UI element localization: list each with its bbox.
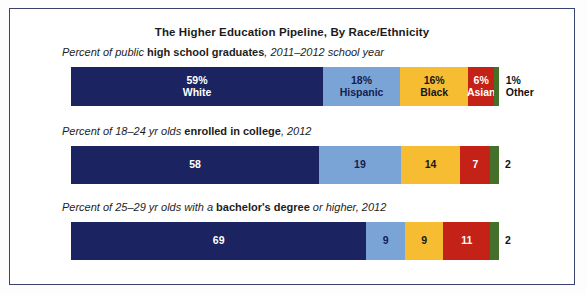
bar-group-subtitle: Percent of 25–29 yr olds with a bachelor… (62, 201, 386, 213)
bar-segment-other (490, 146, 499, 184)
bar-segment-asian: 11 (443, 222, 490, 260)
stacked-bar-row-1: 5819147 (71, 146, 499, 184)
segment-value: 7 (473, 159, 479, 171)
bar-segment-other (494, 67, 499, 106)
subtitle-emphasis: bachelor's degree (216, 201, 310, 213)
subtitle-suffix: , 2012 (281, 125, 312, 137)
bar-segment-black: 14 (401, 146, 461, 184)
bar-segment-white: 58 (71, 146, 319, 184)
segment-group-label: White (183, 87, 212, 99)
segment-value: 1% (506, 75, 521, 87)
segment-group-label: Other (506, 87, 534, 99)
segment-group-label: Hispanic (340, 87, 384, 99)
bar-segment-asian: 6%Asian (468, 67, 494, 106)
segment-value: 9 (421, 235, 427, 247)
subtitle-suffix: , 2011–2012 school year (264, 46, 384, 58)
stacked-bar-row-2: 699911 (71, 222, 499, 260)
segment-value: 16% (424, 75, 445, 87)
segment-value: 69 (213, 235, 225, 247)
bar-segment-hispanic: 19 (319, 146, 400, 184)
segment-value: 2 (505, 159, 511, 171)
segment-value: 11 (461, 235, 472, 247)
segment-value: 59% (187, 75, 208, 87)
chart-frame: The Higher Education Pipeline, By Race/E… (9, 8, 575, 285)
bar-group-subtitle: Percent of public high school graduates,… (62, 46, 384, 58)
segment-group-label: Black (420, 87, 448, 99)
bar-segment-hispanic: 18%Hispanic (323, 67, 400, 106)
bar-group-subtitle: Percent of 18–24 yr olds enrolled in col… (62, 125, 311, 137)
stacked-bar-row-0: 59%White18%Hispanic16%Black6%Asian (71, 67, 499, 106)
subtitle-prefix: Percent of public (62, 46, 147, 58)
bar-segment-black: 16%Black (400, 67, 468, 106)
bar-segment-white: 59%White (71, 67, 323, 106)
segment-value: 6% (474, 75, 489, 87)
infographic-figure: The Higher Education Pipeline, By Race/E… (0, 0, 587, 295)
segment-value: 18% (351, 75, 372, 87)
segment-group-label: Asian (467, 87, 496, 99)
bar-segment-outside-label-other: 1%Other (500, 67, 534, 106)
segment-value: 9 (383, 235, 389, 247)
segment-value: 2 (505, 235, 511, 247)
bar-segment-outside-label-other: 2 (499, 222, 511, 260)
bar-segment-black: 9 (405, 222, 444, 260)
subtitle-prefix: Percent of 18–24 yr olds (62, 125, 184, 137)
subtitle-suffix: or higher, 2012 (310, 201, 386, 213)
subtitle-emphasis: high school graduates (147, 46, 264, 58)
segment-value: 19 (354, 159, 366, 171)
bar-segment-hispanic: 9 (366, 222, 405, 260)
bar-segment-white: 69 (71, 222, 366, 260)
segment-value: 14 (425, 159, 437, 171)
page-title: The Higher Education Pipeline, By Race/E… (10, 26, 574, 38)
bar-segment-other (490, 222, 499, 260)
subtitle-prefix: Percent of 25–29 yr olds with a (62, 201, 216, 213)
subtitle-emphasis: enrolled in college (184, 125, 281, 137)
bar-segment-asian: 7 (460, 146, 490, 184)
segment-value: 58 (189, 159, 201, 171)
bar-segment-outside-label-other: 2 (499, 146, 511, 184)
